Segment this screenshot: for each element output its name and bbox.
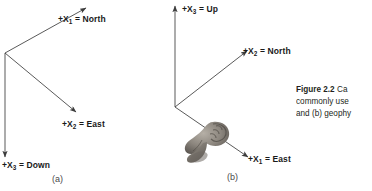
axis-label-x2-east-value: East	[87, 119, 105, 129]
axis-label-x1-east-subscript: 1	[259, 158, 263, 165]
axis-label-x3-up-equals: =	[197, 4, 207, 14]
axis-label-x3-up-symbol: X	[187, 4, 193, 14]
axis-label-x3-down-subscript: 3	[13, 164, 17, 171]
axis-label-x1-north-symbol: X	[63, 14, 69, 24]
axis-label-x2-east-symbol: X	[67, 119, 73, 129]
axis-label-x1-north-value: North	[83, 14, 106, 24]
axis-label-x1-east-equals: =	[263, 154, 273, 164]
figure-2-2: +X1 = North +X2 = East +X3 = Down (a) +X…	[0, 0, 372, 191]
axis-label-x3-down-symbol: X	[7, 160, 13, 170]
axis-label-x2-east-subscript: 2	[73, 123, 77, 130]
right-hand-photo	[183, 118, 235, 166]
axis-label-x1-north-subscript: 1	[69, 18, 73, 25]
axis-label-x3-down: +X3 = Down	[2, 160, 50, 170]
axis-label-x3-up-subscript: 3	[193, 8, 197, 15]
axis-label-x2-north-value: North	[268, 46, 291, 56]
axis-label-x3-up: +X3 = Up	[182, 4, 218, 14]
axis-label-x1-north: +X1 = North	[58, 14, 106, 24]
axis-label-x2-east-equals: =	[77, 119, 87, 129]
axis-label-x2-north-equals: =	[258, 46, 268, 56]
figure-caption-line-3: and (b) geophy	[296, 108, 372, 120]
axis-label-x1-east-value: East	[273, 154, 291, 164]
axis-label-x1-north-equals: =	[73, 14, 83, 24]
axis-line-x2-east	[5, 53, 76, 112]
axis-label-x1-east-symbol: X	[253, 154, 259, 164]
hand-silhouette	[185, 122, 229, 165]
panel-b-caption: (b)	[227, 172, 238, 182]
panel-a-axes	[5, 8, 86, 157]
figure-caption-line-2: commonly use	[296, 96, 372, 108]
axis-label-x3-down-value: Down	[27, 160, 51, 170]
figure-caption: Figure 2.2 Ca commonly use and (b) geoph…	[296, 84, 372, 119]
axis-label-x2-north-symbol: X	[248, 46, 254, 56]
axis-label-x2-north-subscript: 2	[254, 50, 258, 57]
axis-line-x2-north	[175, 51, 247, 107]
axis-label-x2-north: +X2 = North	[243, 46, 291, 56]
figure-caption-line-1: Figure 2.2 Ca	[296, 84, 372, 96]
panel-a-caption: (a)	[52, 174, 63, 184]
figure-caption-line-1-rest: Ca	[335, 85, 348, 94]
axis-label-x3-down-equals: =	[17, 160, 27, 170]
axis-label-x2-east: +X2 = East	[62, 119, 105, 129]
axis-label-x3-up-value: Up	[207, 4, 219, 14]
figure-caption-number: Figure 2.2	[296, 85, 335, 94]
axis-label-x1-east: +X1 = East	[248, 154, 291, 164]
